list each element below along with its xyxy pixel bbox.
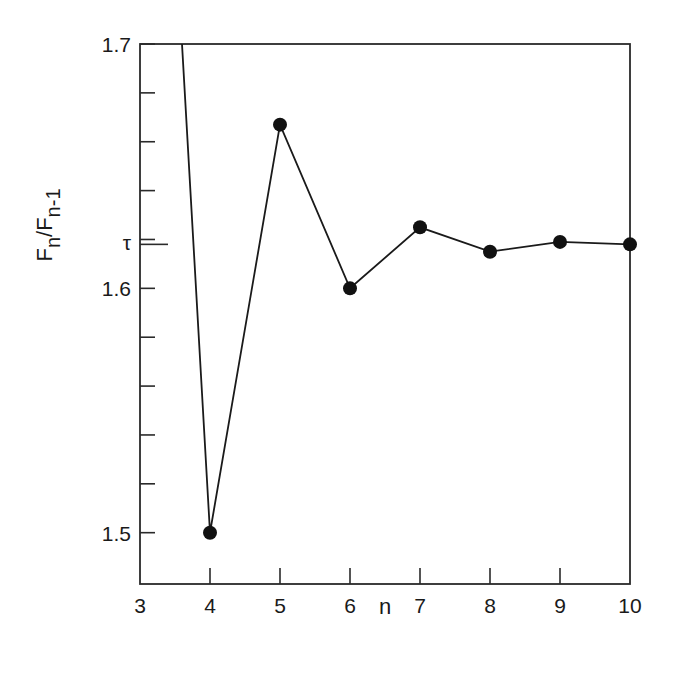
- data-series: [140, 0, 637, 540]
- y-tick-label: 1.5: [102, 522, 131, 545]
- data-point: [343, 281, 357, 295]
- plot-border: [140, 44, 630, 584]
- data-point: [483, 245, 497, 259]
- y-axis-ticks: 1.51.61.7τ: [102, 33, 168, 545]
- y-tick-label: 1.7: [102, 33, 131, 56]
- x-tick-label: 5: [274, 594, 286, 617]
- x-tick-label: 9: [554, 594, 566, 617]
- x-axis-label: n: [379, 594, 391, 619]
- x-tick-label: 3: [134, 594, 146, 617]
- data-point: [273, 118, 287, 132]
- x-tick-label: 6: [344, 594, 356, 617]
- data-point: [553, 235, 567, 249]
- tau-label: τ: [123, 231, 132, 254]
- series-line: [140, 0, 630, 533]
- chart-svg: 1.51.61.7τ 345678910 n Fn/Fn-1: [0, 0, 678, 675]
- plot-frame: [140, 44, 630, 584]
- y-tick-label: 1.6: [102, 277, 131, 300]
- data-point: [623, 237, 637, 251]
- x-tick-label: 7: [414, 594, 426, 617]
- y-axis-label: Fn/Fn-1: [32, 188, 64, 261]
- x-tick-label: 8: [484, 594, 496, 617]
- x-tick-label: 4: [204, 594, 216, 617]
- data-point: [413, 220, 427, 234]
- x-tick-label: 10: [618, 594, 641, 617]
- data-point: [203, 526, 217, 540]
